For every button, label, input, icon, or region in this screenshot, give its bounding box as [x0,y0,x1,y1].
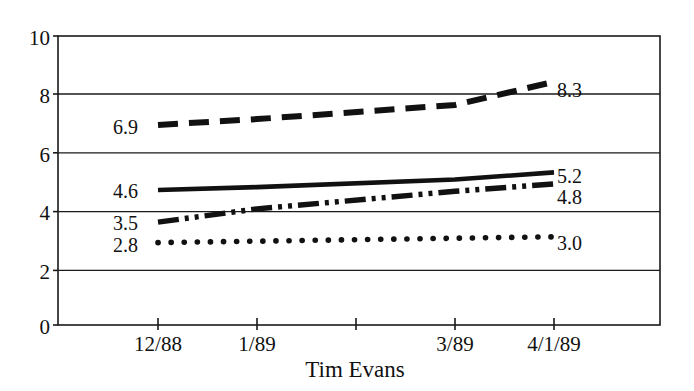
data-label-solid-start: 4.6 [113,181,138,201]
data-label-dashdot-end: 4.8 [557,187,582,207]
ytick-label-6: 6 [0,145,50,166]
data-label-dashed-end: 8.3 [557,80,582,100]
xtick-label-12-88: 12/88 [108,334,208,355]
ytick-label-2: 2 [0,262,50,283]
ytick-label-4: 4 [0,203,50,224]
data-label-dotted-end: 3.0 [557,233,582,253]
data-label-dashdot-start: 3.5 [113,213,138,233]
xtick-label-4-1-89: 4/1/89 [499,334,609,355]
ytick-label-10: 10 [0,28,50,49]
data-label-dashed-start: 6.9 [113,117,138,137]
ytick-label-0: 0 [0,317,50,338]
line-chart: 10 8 6 4 2 0 12/88 1/89 3/89 4/1/89 6.9 … [0,0,694,391]
plot-area [0,0,694,391]
data-label-solid-end: 5.2 [557,166,582,186]
xtick-label-3-89: 3/89 [410,334,500,355]
ytick-label-8: 8 [0,86,50,107]
xtick-label-1-89: 1/89 [212,334,302,355]
data-label-dotted-start: 2.8 [113,235,138,255]
chart-caption: Tim Evans [227,358,483,381]
